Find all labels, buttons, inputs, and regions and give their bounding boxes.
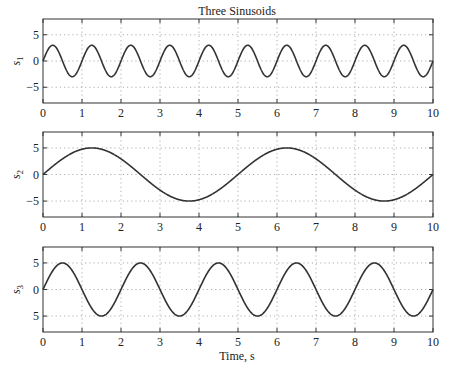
y-tick-label: −5 bbox=[26, 194, 39, 208]
x-tick-label: 2 bbox=[118, 220, 124, 234]
y-axis-label: s3 bbox=[9, 284, 25, 294]
y-tick-label: 5 bbox=[33, 309, 39, 323]
x-tick-label: 4 bbox=[196, 220, 202, 234]
y-tick-label: 0 bbox=[33, 168, 39, 182]
x-tick-label: 7 bbox=[313, 220, 319, 234]
series-line-s2 bbox=[43, 148, 433, 201]
y-tick-label: 5 bbox=[33, 141, 39, 155]
subplot-s1: 01234567891050−5s1 bbox=[9, 19, 439, 120]
x-tick-label: 9 bbox=[391, 335, 397, 349]
x-tick-label: 9 bbox=[391, 106, 397, 120]
x-tick-label: 0 bbox=[40, 220, 46, 234]
x-tick-label: 10 bbox=[427, 106, 439, 120]
y-tick-label: 0 bbox=[33, 283, 39, 297]
x-tick-label: 9 bbox=[391, 220, 397, 234]
x-tick-label: 10 bbox=[427, 335, 439, 349]
x-tick-label: 3 bbox=[157, 220, 163, 234]
series-line-s1 bbox=[43, 45, 433, 77]
x-tick-label: 8 bbox=[352, 335, 358, 349]
y-tick-label: 5 bbox=[33, 28, 39, 42]
x-tick-label: 8 bbox=[352, 220, 358, 234]
x-tick-label: 0 bbox=[40, 335, 46, 349]
x-tick-label: 1 bbox=[79, 106, 85, 120]
x-tick-label: 8 bbox=[352, 106, 358, 120]
x-tick-label: 1 bbox=[79, 220, 85, 234]
x-tick-label: 2 bbox=[118, 335, 124, 349]
x-tick-label: 5 bbox=[235, 106, 241, 120]
y-axis-label: s2 bbox=[9, 170, 25, 179]
x-tick-label: 3 bbox=[157, 106, 163, 120]
subplot-s3: 012345678910505s3 bbox=[9, 247, 439, 349]
y-tick-label: 5 bbox=[33, 256, 39, 270]
x-tick-label: 6 bbox=[274, 220, 280, 234]
x-tick-label: 6 bbox=[274, 335, 280, 349]
x-tick-label: 7 bbox=[313, 106, 319, 120]
x-axis-label: Time, s bbox=[219, 349, 255, 363]
subplot-s2: 01234567891050−5s2 bbox=[9, 132, 439, 234]
x-tick-label: 7 bbox=[313, 335, 319, 349]
y-tick-label: 0 bbox=[33, 54, 39, 68]
x-tick-label: 4 bbox=[196, 335, 202, 349]
x-tick-label: 1 bbox=[79, 335, 85, 349]
x-tick-label: 10 bbox=[427, 220, 439, 234]
x-tick-label: 4 bbox=[196, 106, 202, 120]
figure: Three Sinusoids 01234567891050−5s1 01234… bbox=[0, 0, 450, 368]
y-tick-label: −5 bbox=[26, 80, 39, 94]
x-tick-label: 6 bbox=[274, 106, 280, 120]
x-tick-label: 5 bbox=[235, 335, 241, 349]
chart-title: Three Sinusoids bbox=[198, 4, 276, 18]
x-tick-label: 5 bbox=[235, 220, 241, 234]
x-tick-label: 2 bbox=[118, 106, 124, 120]
series-line-s3 bbox=[43, 263, 433, 316]
x-tick-label: 0 bbox=[40, 106, 46, 120]
y-axis-label: s1 bbox=[9, 56, 25, 65]
x-tick-label: 3 bbox=[157, 335, 163, 349]
